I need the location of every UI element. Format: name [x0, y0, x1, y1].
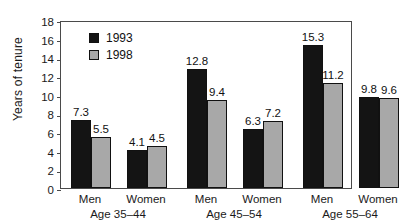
bar-1993-Age35–44-Women: [127, 150, 147, 188]
bar-value-label: 12.8: [186, 55, 208, 67]
x-tick-label-women: Women: [358, 193, 397, 205]
y-tick-14: 14: [37, 53, 61, 65]
x-tick-label-women: Women: [126, 193, 165, 205]
bar-1998-Age45–54-Men: [207, 100, 227, 188]
bar-value-label: 7.2: [265, 107, 281, 119]
y-tick-label: 14: [37, 53, 54, 65]
bar-value-label: 7.3: [73, 106, 89, 118]
y-tick-12: 12: [37, 72, 61, 84]
bar-value-label: 11.2: [322, 69, 344, 81]
bar-value-label: 6.3: [245, 115, 261, 127]
bar-1993-Age55–64-Men: [303, 45, 323, 188]
x-group-label: Age 35–44: [90, 208, 146, 220]
bar-value-label: 5.5: [93, 123, 109, 135]
bar-1998-Age35–44-Women: [147, 146, 167, 188]
x-group-label: Age 55–64: [322, 208, 378, 220]
bar-1998-Age55–64-Men: [323, 83, 343, 188]
y-tick-label: 18: [37, 16, 54, 28]
x-tick-label-women: Women: [242, 193, 281, 205]
y-tick-mark: [57, 190, 61, 191]
y-tick-16: 16: [37, 35, 61, 47]
bar-1998-Age35–44-Men: [91, 137, 111, 188]
y-tick-label: 4: [37, 147, 54, 159]
bar-1998-Age55–64-Women: [379, 98, 399, 188]
y-tick-label: 10: [37, 91, 54, 103]
y-tick-label: 12: [37, 72, 54, 84]
bar-1993-Age35–44-Men: [71, 120, 91, 188]
bar-value-label: 9.8: [361, 83, 377, 95]
bar-value-label: 4.1: [129, 136, 145, 148]
bar-1993-Age55–64-Women: [359, 97, 379, 188]
x-group-label: Age 45–54: [206, 208, 262, 220]
y-tick-8: 8: [37, 109, 61, 121]
y-tick-label: 8: [37, 109, 54, 121]
x-tick-label-men: Men: [195, 193, 217, 205]
bar-value-label: 4.5: [149, 132, 165, 144]
y-tick-0: 0: [37, 184, 61, 196]
y-tick-label: 6: [37, 128, 54, 140]
y-tick-4: 4: [37, 147, 61, 159]
bar-value-label: 15.3: [302, 31, 324, 43]
y-tick-label: 2: [37, 165, 54, 177]
bar-1993-Age45–54-Men: [187, 69, 207, 188]
x-tick-label-men: Men: [311, 193, 333, 205]
bar-value-label: 9.4: [209, 86, 225, 98]
plot-area: 024681012141618 1993 1998 7.35.54.14.512…: [60, 21, 352, 189]
bar-series-container: 7.35.54.14.512.89.46.37.215.311.29.89.6: [61, 22, 351, 188]
y-tick-6: 6: [37, 128, 61, 140]
y-tick-18: 18: [37, 16, 61, 28]
bar-1998-Age45–54-Women: [263, 121, 283, 188]
bar-1993-Age45–54-Women: [243, 129, 263, 188]
y-tick-label: 16: [37, 35, 54, 47]
y-tick-label: 0: [37, 184, 54, 196]
y-tick-2: 2: [37, 165, 61, 177]
x-tick-label-men: Men: [79, 193, 101, 205]
bar-value-label: 9.6: [381, 84, 397, 96]
y-axis-title: Years of tenure: [11, 0, 25, 159]
y-tick-10: 10: [37, 91, 61, 103]
